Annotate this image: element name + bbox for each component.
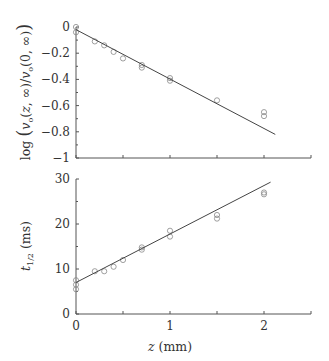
x-tick-label: 0 [72,319,80,333]
bottom-y-axis-label: t1/2(ms) [18,221,35,271]
chart-figure: 0−0.2−0.4−0.6−0.8−1 0120102030 log(vo(z,… [0,0,329,361]
fit-line [76,182,271,282]
data-point [111,264,116,269]
x-tick-label: 1 [166,319,174,333]
fit-line [76,30,275,135]
y-tick-label: −0.6 [41,99,70,113]
y-tick-label: −0.4 [41,72,71,86]
bottom-panel: 0120102030 [55,172,311,333]
y-tick-label: 0 [62,20,70,34]
axis-labels: log(vo(z, ∞)/vo(0, ∞)) t1/2(ms) z(mm) [13,24,192,354]
y-tick-label: −0.8 [41,125,70,139]
y-tick-label: −1 [52,151,70,165]
top-y-axis-label: log(vo(z, ∞)/vo(0, ∞)) [13,24,35,160]
top-panel: 0−0.2−0.4−0.6−0.8−1 [41,20,311,165]
y-tick-label: 20 [55,217,70,231]
data-point [214,216,219,221]
x-axis-label: z(mm) [147,339,192,354]
data-point [214,98,219,103]
y-tick-label: −0.2 [41,46,70,60]
data-point [120,56,125,61]
x-tick-label: 2 [260,319,268,333]
y-tick-label: 10 [55,262,70,276]
y-tick-label: 30 [55,172,70,186]
data-point [261,113,266,118]
y-tick-label: 0 [62,307,70,321]
